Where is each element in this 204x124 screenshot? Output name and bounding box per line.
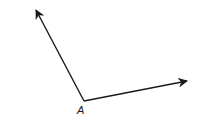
right-ray xyxy=(84,81,187,101)
upper-left-ray xyxy=(36,10,84,101)
vertex-label: A xyxy=(76,104,84,116)
angle-diagram: A xyxy=(0,0,204,124)
